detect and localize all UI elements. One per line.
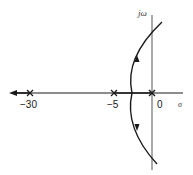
pole-label-minus-5: −5 (107, 99, 119, 110)
arrow-left-icon (9, 90, 17, 96)
pole-label-minus-30: −30 (20, 99, 37, 110)
root-locus-plot: jω σ −30 −5 0 (0, 0, 193, 175)
imag-axis-label: jω (137, 8, 147, 18)
real-axis-label: σ (178, 100, 183, 109)
pole-label-zero: 0 (157, 99, 163, 110)
